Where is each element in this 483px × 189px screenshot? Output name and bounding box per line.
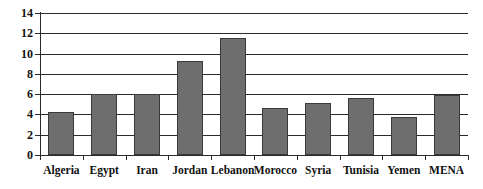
bar-slot	[211, 13, 254, 155]
bar-slot	[83, 13, 126, 155]
bar-chart: 02468101214 AlgeriaEgyptIranJordanLebano…	[0, 0, 483, 189]
x-axis-tick	[340, 155, 341, 160]
x-axis-category-label: Jordan	[172, 164, 207, 177]
x-axis-tick	[382, 155, 383, 160]
x-axis-tick	[40, 155, 41, 160]
x-axis-tick	[254, 155, 255, 160]
x-axis-category-label: Lebanon	[211, 164, 254, 177]
x-axis-tick	[468, 155, 469, 160]
bar-slot	[340, 13, 383, 155]
x-axis-tick	[168, 155, 169, 160]
x-axis-category-label: Yemen	[387, 164, 420, 177]
x-axis-tick	[211, 155, 212, 160]
bar[interactable]	[391, 117, 417, 155]
bar-slot	[297, 13, 340, 155]
bar[interactable]	[348, 98, 374, 155]
bar[interactable]	[91, 94, 117, 155]
x-axis-category-label: MENA	[429, 164, 464, 177]
bar-slot	[382, 13, 425, 155]
y-axis-tick-label: 6	[0, 88, 33, 100]
bar[interactable]	[305, 103, 331, 155]
x-axis-tick	[83, 155, 84, 160]
plot-area	[40, 13, 468, 155]
y-axis-tick-label: 12	[0, 27, 33, 39]
x-axis-tick	[126, 155, 127, 160]
bar-slot	[40, 13, 83, 155]
x-axis-category-label: Egypt	[89, 164, 118, 177]
x-axis-tick	[425, 155, 426, 160]
bar[interactable]	[434, 95, 460, 155]
x-axis-category-label: Iran	[136, 164, 158, 177]
bar-slot	[254, 13, 297, 155]
x-axis-category-label: Syria	[305, 164, 331, 177]
bar[interactable]	[262, 108, 288, 155]
y-axis-tick-label: 8	[0, 68, 33, 80]
bar[interactable]	[134, 94, 160, 155]
y-axis-tick-label: 2	[0, 129, 33, 141]
bar-slot	[425, 13, 468, 155]
x-axis-category-label: Morocco	[254, 164, 297, 177]
bar[interactable]	[48, 112, 74, 155]
y-axis-tick-label: 10	[0, 48, 33, 60]
bar-slot	[168, 13, 211, 155]
x-axis-category-label: Tunisia	[343, 164, 379, 177]
bar-slot	[126, 13, 169, 155]
bar[interactable]	[177, 61, 203, 155]
x-axis-tick	[297, 155, 298, 160]
bar[interactable]	[220, 38, 246, 155]
y-axis-tick-label: 0	[0, 149, 33, 161]
y-axis-tick-label: 4	[0, 108, 33, 120]
x-axis-category-label: Algeria	[43, 164, 79, 177]
y-axis-tick-label: 14	[0, 7, 33, 19]
